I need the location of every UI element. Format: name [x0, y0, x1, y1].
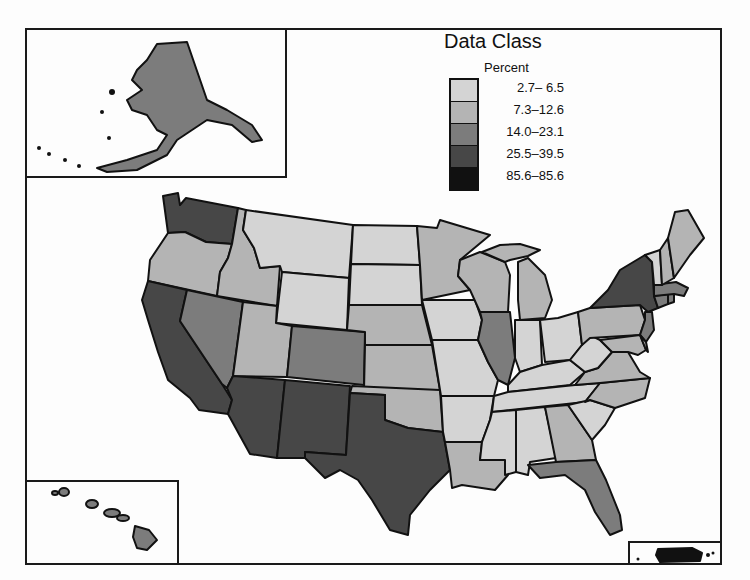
state-arizona[interactable] — [227, 376, 285, 458]
state-indiana[interactable] — [515, 320, 542, 372]
hawaii-inset — [25, 480, 179, 565]
legend-swatch-3 — [451, 146, 477, 168]
legend-swatch-0 — [451, 80, 477, 102]
state-colorado[interactable] — [287, 326, 365, 385]
legend-label: 25.5–39.5 — [480, 143, 564, 165]
legend-label: 2.7– 6.5 — [480, 77, 564, 99]
alaska-inset — [25, 28, 287, 178]
alaska-map — [27, 30, 289, 180]
legend-swatch-4 — [451, 168, 477, 189]
state-iowa[interactable] — [422, 300, 482, 340]
state-hawaii[interactable] — [52, 488, 157, 550]
state-new_mexico[interactable] — [277, 380, 350, 458]
state-north_dakota[interactable] — [351, 225, 420, 265]
legend-labels: 2.7– 6.5 7.3–12.6 14.0–23.1 25.5–39.5 85… — [480, 77, 564, 187]
state-maine[interactable] — [668, 210, 704, 278]
legend-subtitle: Percent — [484, 60, 529, 75]
region-puerto-rico[interactable] — [656, 548, 702, 562]
legend-title: Data Class — [444, 30, 542, 53]
state-kansas[interactable] — [364, 345, 440, 390]
state-michigan[interactable] — [518, 258, 552, 320]
state-new_york[interactable] — [590, 255, 658, 312]
legend-swatches — [449, 78, 479, 191]
legend-label: 14.0–23.1 — [480, 121, 564, 143]
puerto-rico-map — [630, 543, 724, 567]
legend-swatch-2 — [451, 124, 477, 146]
state-south_dakota[interactable] — [349, 264, 422, 305]
state-florida[interactable] — [528, 460, 622, 535]
legend-label: 7.3–12.6 — [480, 99, 564, 121]
legend-swatch-1 — [451, 102, 477, 124]
state-montana[interactable] — [243, 210, 353, 278]
hawaii-map — [27, 482, 181, 567]
state-alaska[interactable] — [97, 42, 262, 172]
legend-label: 85.6–85.6 — [480, 165, 564, 187]
puerto-rico-inset — [628, 541, 722, 565]
state-wyoming[interactable] — [276, 272, 349, 330]
